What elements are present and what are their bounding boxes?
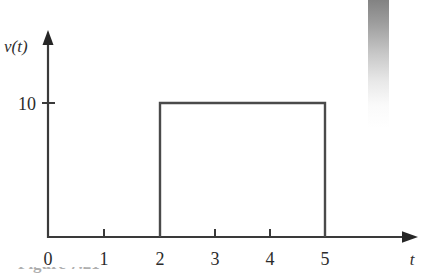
x-tick-label-0: 0 (44, 249, 53, 269)
pulse-waveform-chart: 10 v(t) 0 1 2 3 4 5 t (0, 0, 431, 278)
x-tick-label-2: 2 (156, 249, 165, 269)
x-axis-label: t (410, 250, 416, 269)
x-tick-label-3: 3 (211, 249, 220, 269)
pulse-waveform-trace (160, 103, 325, 237)
y-axis-label: v(t) (4, 37, 28, 56)
x-axis-arrowhead (402, 231, 418, 243)
x-tick-label-4: 4 (266, 249, 275, 269)
x-tick-label-1: 1 (100, 249, 109, 269)
y-axis-arrowhead (43, 30, 54, 45)
y-tick-label-10: 10 (18, 94, 36, 114)
x-tick-label-5: 5 (321, 249, 330, 269)
figure-container: 10 v(t) 0 1 2 3 4 5 t Figure 7.21 (0, 0, 431, 278)
